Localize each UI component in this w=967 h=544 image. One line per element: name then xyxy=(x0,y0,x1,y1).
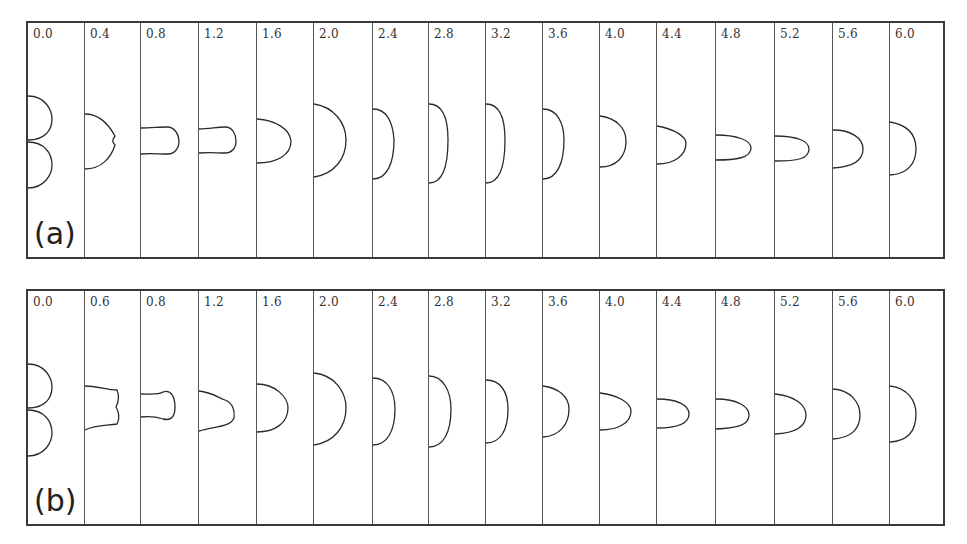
interface-shape xyxy=(429,23,485,257)
interface-shape xyxy=(716,291,774,524)
interface-shape xyxy=(486,291,542,524)
panel-label: (b) xyxy=(34,483,76,518)
interface-shape xyxy=(657,23,715,257)
panel-label: (a) xyxy=(34,216,76,251)
frame-b-10: 4.0 xyxy=(600,291,657,524)
interface-shape xyxy=(85,291,140,524)
frame-b-13: 5.2 xyxy=(775,291,833,524)
interface-shape xyxy=(833,23,889,257)
frame-a-10: 4.0 xyxy=(600,23,657,257)
interface-shape xyxy=(141,23,198,257)
panel-b: 0.0(b)0.60.81.21.62.02.42.83.23.64.04.44… xyxy=(26,289,945,526)
interface-shape xyxy=(890,291,943,524)
interface-shape xyxy=(199,291,256,524)
frame-b-11: 4.4 xyxy=(657,291,716,524)
frame-a-4: 1.6 xyxy=(257,23,314,257)
frame-b-9: 3.6 xyxy=(543,291,600,524)
interface-shape xyxy=(600,291,656,524)
interface-shape xyxy=(775,291,832,524)
interface-shape xyxy=(257,291,313,524)
interface-shape xyxy=(257,23,313,257)
frame-b-8: 3.2 xyxy=(486,291,543,524)
interface-shape xyxy=(775,23,832,257)
interface-shape xyxy=(600,23,656,257)
coalescence-figure: 0.0(a)0.40.81.21.62.02.42.83.23.64.04.44… xyxy=(0,0,967,544)
frame-a-0: 0.0(a) xyxy=(28,23,85,257)
frame-b-6: 2.4 xyxy=(373,291,429,524)
frame-a-12: 4.8 xyxy=(716,23,775,257)
frame-b-5: 2.0 xyxy=(314,291,373,524)
frame-a-8: 3.2 xyxy=(486,23,543,257)
frame-b-1: 0.6 xyxy=(85,291,141,524)
frame-a-15: 6.0 xyxy=(890,23,943,257)
frame-b-12: 4.8 xyxy=(716,291,775,524)
frame-a-5: 2.0 xyxy=(314,23,373,257)
interface-shape xyxy=(141,291,198,524)
interface-shape xyxy=(199,23,256,257)
frame-b-4: 1.6 xyxy=(257,291,314,524)
frame-b-15: 6.0 xyxy=(890,291,943,524)
interface-shape xyxy=(373,291,428,524)
frame-a-1: 0.4 xyxy=(85,23,141,257)
panel-a: 0.0(a)0.40.81.21.62.02.42.83.23.64.04.44… xyxy=(26,21,945,259)
interface-shape xyxy=(833,291,889,524)
interface-shape xyxy=(429,291,485,524)
frame-b-3: 1.2 xyxy=(199,291,257,524)
frame-a-7: 2.8 xyxy=(429,23,486,257)
interface-shape xyxy=(716,23,774,257)
frame-b-2: 0.8 xyxy=(141,291,199,524)
interface-shape xyxy=(373,23,428,257)
interface-shape xyxy=(85,23,140,257)
interface-shape xyxy=(657,291,715,524)
frame-a-9: 3.6 xyxy=(543,23,600,257)
interface-shape xyxy=(543,23,599,257)
frame-a-14: 5.6 xyxy=(833,23,890,257)
frame-a-3: 1.2 xyxy=(199,23,257,257)
interface-shape xyxy=(486,23,542,257)
frame-b-7: 2.8 xyxy=(429,291,486,524)
frame-b-0: 0.0(b) xyxy=(28,291,85,524)
frame-a-2: 0.8 xyxy=(141,23,199,257)
frame-a-11: 4.4 xyxy=(657,23,716,257)
frame-b-14: 5.6 xyxy=(833,291,890,524)
interface-shape xyxy=(314,23,372,257)
interface-shape xyxy=(890,23,943,257)
interface-shape xyxy=(314,291,372,524)
frame-a-13: 5.2 xyxy=(775,23,833,257)
frame-a-6: 2.4 xyxy=(373,23,429,257)
interface-shape xyxy=(543,291,599,524)
